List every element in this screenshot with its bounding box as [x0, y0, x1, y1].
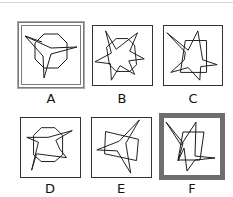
option-a[interactable]	[18, 22, 84, 88]
top-divider	[0, 2, 233, 3]
option-label-c: C	[178, 92, 208, 106]
figure-f	[164, 118, 220, 175]
option-label-e: E	[106, 182, 136, 196]
figure-b	[93, 26, 152, 85]
figure-d	[21, 118, 80, 177]
figure-e	[92, 118, 151, 177]
option-label-b: B	[107, 92, 137, 106]
option-c[interactable]	[163, 25, 223, 86]
figure-c	[164, 26, 222, 85]
option-label-d: D	[35, 182, 65, 196]
option-f[interactable]	[159, 113, 225, 180]
option-label-f: F	[177, 182, 207, 196]
option-b[interactable]	[92, 25, 153, 86]
option-d[interactable]	[20, 117, 81, 178]
option-e[interactable]	[91, 117, 152, 178]
option-label-a: A	[36, 92, 66, 106]
figure-a	[22, 26, 80, 84]
